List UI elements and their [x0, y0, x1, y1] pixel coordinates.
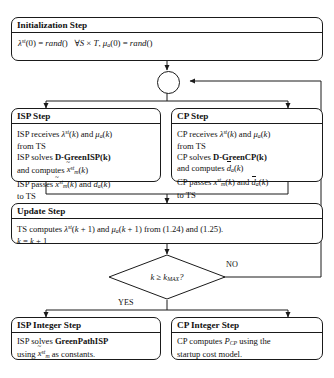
node-cp-integer-step: CP Integer Step CP computes PCP using th… — [171, 317, 323, 360]
decision-condition-label: k ≥ kMAX? — [108, 254, 226, 300]
node-cp-integer-step-title: CP Integer Step — [172, 318, 322, 333]
node-decision-kmax: k ≥ kMAX? — [108, 254, 226, 300]
edge-label-yes: YES — [118, 298, 133, 307]
node-cp-step-body: CP receives λst(k) and μa(k) from TS CP … — [172, 124, 322, 204]
node-cp-integer-step-body: CP computes PCP using the startup cost m… — [172, 333, 322, 362]
edge-label-no: NO — [226, 260, 238, 269]
node-update-step: Update Step TS computes λst(k + 1) and μ… — [11, 203, 323, 244]
node-isp-integer-step-title: ISP Integer Step — [12, 318, 160, 333]
node-isp-step: ISP Step ISP receives λst(k) and μa(k) f… — [11, 108, 161, 182]
node-isp-integer-step-body: ISP solves GreenPathISP using xstm as co… — [12, 333, 160, 364]
node-update-step-body: TS computes λst(k + 1) and μa(k + 1) fro… — [12, 219, 322, 250]
node-update-step-title: Update Step — [12, 204, 322, 219]
node-initialization-title: Initialization Step — [12, 18, 322, 33]
flowchart-canvas: Initialization Step λst(0) = rand() ∀S ×… — [0, 0, 334, 378]
node-cp-step-title: CP Step — [172, 109, 322, 124]
node-isp-integer-step: ISP Integer Step ISP solves GreenPathISP… — [11, 317, 161, 360]
node-initialization-equation: λst(0) = rand() ∀S × T, μa(0) = rand() — [12, 33, 322, 54]
node-cp-step: CP Step CP receives λst(k) and μa(k) fro… — [171, 108, 323, 182]
node-isp-step-title: ISP Step — [12, 109, 160, 124]
node-isp-step-body: ISP receives λst(k) and μa(k) from TS IS… — [12, 124, 160, 205]
node-loop-connector — [157, 71, 180, 94]
node-initialization-step: Initialization Step λst(0) = rand() ∀S ×… — [11, 17, 323, 61]
